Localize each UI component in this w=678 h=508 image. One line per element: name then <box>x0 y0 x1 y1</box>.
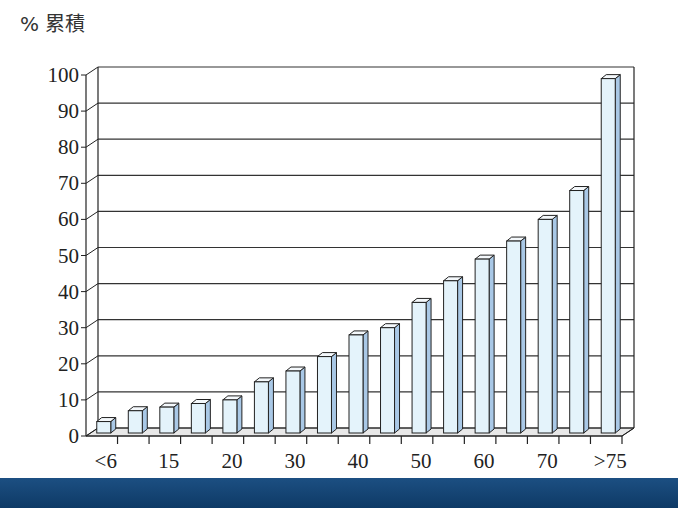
bar-side <box>584 187 589 433</box>
y-tick-label: 90 <box>58 99 79 123</box>
y-tick-label: 100 <box>48 63 80 87</box>
grid-diagonal <box>86 67 98 75</box>
grid-diagonal <box>86 248 98 256</box>
bar <box>128 411 142 433</box>
grid-diagonal <box>86 392 98 400</box>
y-tick-label: 20 <box>58 352 79 376</box>
grid-diagonal <box>86 175 98 183</box>
y-tick-label: 40 <box>58 280 79 304</box>
bar-side <box>363 331 368 433</box>
bar <box>254 382 268 433</box>
grid-diagonal <box>86 284 98 292</box>
x-tick-label: 20 <box>221 449 242 473</box>
bar-side <box>426 298 431 433</box>
bar <box>160 407 174 433</box>
bar <box>286 371 300 433</box>
bar-side <box>237 396 242 433</box>
bar <box>223 400 237 433</box>
bar <box>349 335 363 433</box>
bar-side <box>552 215 557 433</box>
x-tick-label: 40 <box>348 449 369 473</box>
grid-diagonal <box>86 320 98 328</box>
bar <box>507 241 521 433</box>
bar <box>538 219 552 433</box>
bar <box>444 281 458 433</box>
bar <box>412 302 426 433</box>
bar <box>570 191 584 433</box>
bar-side <box>174 403 179 433</box>
x-tick-label: 70 <box>537 449 558 473</box>
y-tick-label: 80 <box>58 135 79 159</box>
y-tick-label: 30 <box>58 316 79 340</box>
y-tick-label: 0 <box>69 424 80 448</box>
bar <box>381 328 395 433</box>
bar-side <box>205 400 210 433</box>
y-tick-label: 10 <box>58 388 79 412</box>
bar-side <box>395 324 400 433</box>
bar-side <box>615 75 620 433</box>
x-tick-label: 60 <box>474 449 495 473</box>
bar-side <box>521 237 526 433</box>
bar <box>97 422 111 433</box>
x-tick-label: 30 <box>284 449 305 473</box>
bottom-band <box>0 478 678 508</box>
bar-side <box>268 378 273 433</box>
bar-side <box>489 255 494 433</box>
grid-diagonal <box>86 211 98 219</box>
grid-diagonal <box>86 356 98 364</box>
bar-side <box>331 353 336 433</box>
x-tick-label: >75 <box>594 449 627 473</box>
x-tick-label: 50 <box>411 449 432 473</box>
bar-side <box>458 277 463 433</box>
grid-diagonal <box>86 139 98 147</box>
x-tick-label: 15 <box>158 449 179 473</box>
cumulative-bar-chart: 0102030405060708090100<615203040506070>7… <box>0 0 678 508</box>
x-tick-label: <6 <box>95 449 117 473</box>
y-tick-label: 50 <box>58 244 79 268</box>
bar-side <box>300 367 305 433</box>
grid-diagonal <box>86 103 98 111</box>
bar <box>317 357 331 433</box>
bar <box>601 79 615 433</box>
bar <box>191 404 205 433</box>
bar <box>475 259 489 433</box>
y-tick-label: 60 <box>58 207 79 231</box>
y-tick-label: 70 <box>58 171 79 195</box>
